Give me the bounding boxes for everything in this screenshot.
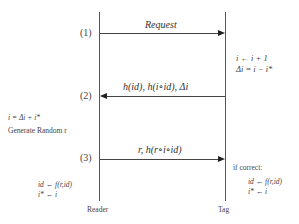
step-1-number: (1) xyxy=(80,27,92,38)
tag-lifeline xyxy=(225,12,226,201)
reader-label: Reader xyxy=(87,205,108,214)
arrowhead-right-icon xyxy=(218,156,225,162)
reader-note-update: id ← f(r,id) i* ← i xyxy=(38,180,72,200)
step-1-arrow xyxy=(100,33,218,34)
tag-label: Tag xyxy=(218,205,229,214)
tag-note-counter: i ← i + 1 Δi = i − i* xyxy=(236,53,272,75)
arrowhead-right-icon xyxy=(218,30,225,36)
step-3-message: r, h(r∘i∘id) xyxy=(138,144,182,155)
step-2-number: (2) xyxy=(80,90,92,101)
tag-note-update: id ← f(r,id) i* ← i xyxy=(248,177,282,197)
arrowhead-left-icon xyxy=(100,93,107,99)
step-1-message: Request xyxy=(145,19,177,30)
step-3-arrow xyxy=(100,159,218,160)
step-3-number: (3) xyxy=(80,152,92,163)
reader-note-compute: i = Δi + i* Generate Random r xyxy=(8,113,67,136)
step-2-message: h(id), h(i∘id), Δi xyxy=(123,81,188,92)
step-2-arrow xyxy=(107,96,225,97)
tag-note-condition: if correct: xyxy=(233,163,262,173)
reader-lifeline xyxy=(99,12,100,201)
